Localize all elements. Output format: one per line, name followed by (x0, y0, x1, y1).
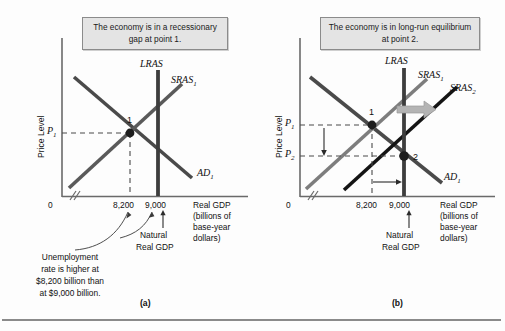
point-1-label-b: 1 (369, 107, 374, 118)
natural-gdp-label-line1-a: Natural (140, 230, 167, 241)
natural-gdp-label-line2-a: Real GDP (136, 242, 174, 253)
natural-gdp-pointer-head (160, 210, 165, 215)
point-1-marker (126, 129, 135, 138)
origin-label-a: 0 (48, 200, 53, 211)
panel-letter-b: (b) (392, 298, 403, 308)
price-tick-p2-b: P2 (285, 149, 295, 164)
panel-b: The economy is in long-run equilibrium a… (252, 0, 505, 331)
curve-label-lras-b: LRAS (385, 56, 408, 67)
curve-label-ad1-b: AD1 (444, 172, 461, 187)
x-axis-label-line3-a: base-year (193, 222, 230, 233)
point-1-marker (368, 121, 377, 130)
gdp-tick-9000-b: 9,000 (389, 200, 410, 211)
annotation-line2-a: rate is higher at (10, 264, 130, 276)
x-axis-label-line1-b: Real GDP (440, 200, 478, 211)
natural-gdp-label-line2-b: Real GDP (382, 242, 420, 253)
annotation-line4-a: at $9,000 billion. (10, 288, 130, 300)
output-expansion-arrow-head (396, 179, 402, 185)
panel-letter-a: (a) (140, 298, 151, 308)
point-1-label-a: 1 (127, 115, 132, 126)
gdp-tick-8200-a: 8,200 (113, 200, 134, 211)
curve-sras1 (69, 84, 182, 188)
point-2-marker (399, 151, 409, 161)
annotation-leader-8200 (75, 212, 128, 250)
figure-container: The economy is in a recessionary gap at … (0, 0, 505, 331)
bottom-divider (2, 319, 501, 321)
annotation-line1-a: Unemployment (10, 252, 130, 264)
x-axis-label-line2-b: (billions of (440, 211, 478, 222)
x-axis-label-line2-a: (billions of (193, 211, 231, 222)
curve-label-sras1-b: SRAS1 (418, 70, 444, 85)
curve-label-sras1-a: SRAS1 (171, 75, 197, 90)
y-axis-label-a: Price Level (36, 115, 46, 158)
origin-label-b: 0 (286, 200, 291, 211)
annotation-leader-9000-head (149, 212, 155, 218)
x-axis-label-line3-b: base-year (440, 222, 477, 233)
price-tick-p1-a: P1 (47, 126, 57, 141)
callout-b: The economy is in long-run equilibrium a… (320, 17, 480, 50)
gdp-tick-9000-a: 9,000 (145, 200, 166, 211)
annotation-line3-a: $8,200 billion than (10, 276, 130, 288)
price-tick-p1-b: P1 (285, 118, 295, 133)
price-fall-arrow-head (321, 150, 327, 156)
panel-a: The economy is in a recessionary gap at … (0, 0, 253, 331)
callout-a: The economy is in a recessionary gap at … (82, 17, 228, 50)
gdp-tick-8200-b: 8,200 (356, 200, 377, 211)
curve-label-sras2-b: SRAS2 (450, 83, 476, 98)
natural-gdp-pointer-head (406, 210, 411, 215)
curve-label-ad1-a: AD1 (197, 168, 214, 183)
x-axis-label-line1-a: Real GDP (193, 200, 231, 211)
x-axis-label-line4-b: dollars) (440, 233, 467, 244)
curve-label-lras-a: LRAS (140, 59, 163, 70)
natural-gdp-label-line1-b: Natural (386, 230, 413, 241)
y-axis-label-b: Price Level (274, 115, 284, 158)
x-axis-label-line4-a: dollars) (193, 233, 220, 244)
point-2-label-b: 2 (413, 152, 418, 163)
